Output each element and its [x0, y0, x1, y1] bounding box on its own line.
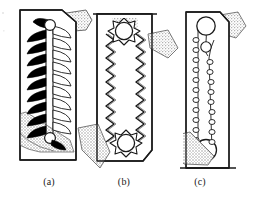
- bottom-sprocket-b: [110, 130, 142, 157]
- conveyor-diagram-svg: [0, 0, 255, 198]
- top-sprocket-b: [108, 18, 140, 45]
- caption-panel-b: (b): [104, 176, 144, 187]
- panel-a-screw-conveyor: [6, 10, 92, 160]
- caption-panel-a: (a): [29, 176, 69, 187]
- scan-artifact: [2, 12, 5, 32]
- panel-c-bucket-elevator: [172, 12, 246, 168]
- panel-b-flight-conveyor: [78, 14, 178, 168]
- figure-root: (a) (b) (c): [0, 0, 255, 198]
- caption-panel-c: (c): [180, 176, 220, 187]
